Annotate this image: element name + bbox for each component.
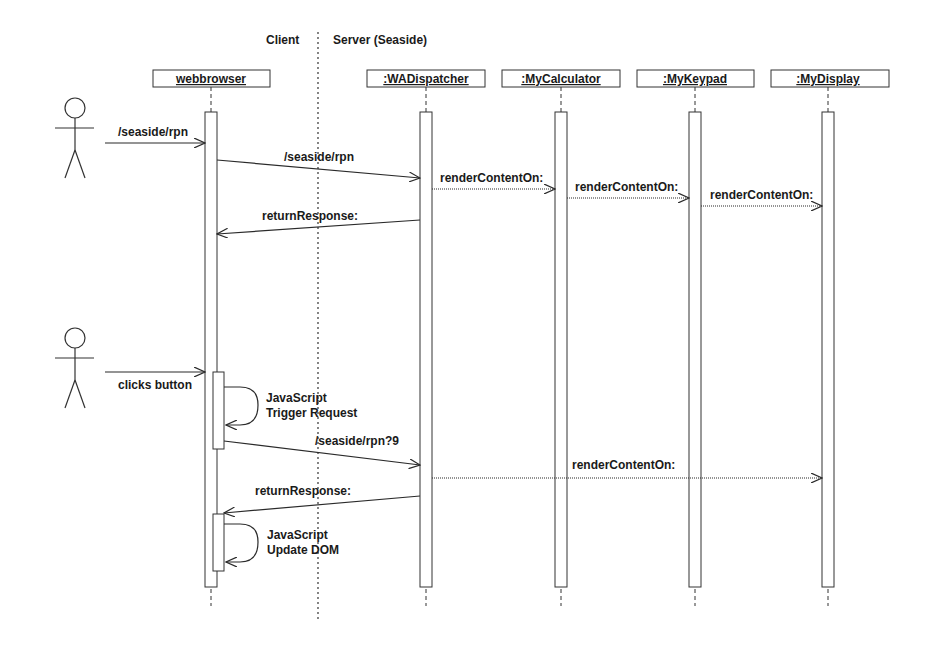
actor-user-icon [55,98,94,178]
activation-bar-mykeypad [689,112,701,587]
svg-text:JavaScript: JavaScript [267,528,328,542]
svg-text:JavaScript: JavaScript [266,391,327,405]
message-render-display-direct: renderContentOn: [432,458,822,478]
lifeline-mykeypad: :MyKeypad [637,70,754,606]
self-message-trigger-request: JavaScript Trigger Request [224,387,357,425]
svg-text:renderContentOn:: renderContentOn: [710,188,813,202]
lifeline-mydisplay: :MyDisplay [771,70,889,606]
lifeline-wadispatcher: :WADispatcher [367,70,485,606]
svg-text::MyCalculator: :MyCalculator [521,72,601,86]
actor-user-icon [55,328,94,408]
activation-bar-mydisplay [822,112,834,587]
svg-text:webbrowser: webbrowser [175,72,246,86]
message-return-response-2: returnResponse: [224,484,420,513]
activation-bar-mycalculator [555,112,567,587]
lifeline-webbrowser: webbrowser [153,70,270,606]
message-render-display: renderContentOn: [701,188,822,206]
nested-activation-update [213,514,224,571]
svg-text:/seaside/rpn?9: /seaside/rpn?9 [315,434,399,448]
svg-text:renderContentOn:: renderContentOn: [572,458,675,472]
nested-activation-trigger [213,372,224,449]
client-region-label: Client [266,33,299,47]
svg-text:renderContentOn:: renderContentOn: [440,171,543,185]
svg-text::WADispatcher: :WADispatcher [383,72,469,86]
sequence-diagram: Client Server (Seaside) webbrowser :WADi… [0,0,934,654]
svg-text:Trigger Request: Trigger Request [266,406,357,420]
message-clicks-button: clicks button [105,372,205,392]
self-message-update-dom: JavaScript Update DOM [224,524,339,562]
svg-text::MyKeypad: :MyKeypad [663,72,727,86]
server-region-label: Server (Seaside) [333,33,427,47]
svg-text:/seaside/rpn: /seaside/rpn [118,125,188,139]
svg-text:renderContentOn:: renderContentOn: [575,180,678,194]
message-seaside-rpn-9: /seaside/rpn?9 [224,434,420,465]
message-render-keypad: renderContentOn: [567,180,689,198]
activation-bar-wadispatcher [420,112,432,587]
message-return-response-1: returnResponse: [217,209,420,234]
message-seaside-rpn-request: /seaside/rpn [105,125,205,143]
svg-text::MyDisplay: :MyDisplay [796,72,860,86]
lifeline-mycalculator: :MyCalculator [502,70,620,606]
message-render-calculator: renderContentOn: [432,171,555,189]
svg-text:Update DOM: Update DOM [267,543,339,557]
svg-text:returnResponse:: returnResponse: [255,484,351,498]
svg-text:clicks button: clicks button [118,378,192,392]
svg-text:/seaside/rpn: /seaside/rpn [284,150,354,164]
svg-text:returnResponse:: returnResponse: [262,209,358,223]
